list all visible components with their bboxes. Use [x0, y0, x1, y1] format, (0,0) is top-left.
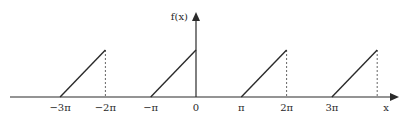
y-axis-arrow-icon [192, 12, 200, 21]
x-tick-labels: −3π−2π−π0π2π3π [49, 102, 338, 113]
ramp-segment [60, 50, 105, 97]
x-tick-label: −2π [95, 102, 117, 113]
ramp-segment [241, 50, 286, 97]
x-tick-label: −π [143, 102, 158, 113]
discontinuity-dashes [105, 50, 377, 97]
x-axis-arrow-icon [390, 93, 399, 101]
y-axis-label: f(x) [171, 11, 188, 22]
sawtooth-chart: f(x) x −3π−2π−π0π2π3π [0, 0, 406, 116]
x-axis-label: x [383, 102, 389, 113]
ramp-segment [332, 50, 377, 97]
x-tick-label: 2π [280, 102, 293, 113]
ramp-segment [151, 50, 196, 97]
ramp-segments [60, 50, 377, 97]
x-tick-label: 0 [193, 102, 199, 113]
x-tick-label: −3π [49, 102, 71, 113]
x-tick-label: 3π [325, 102, 338, 113]
x-tick-label: π [238, 102, 245, 113]
